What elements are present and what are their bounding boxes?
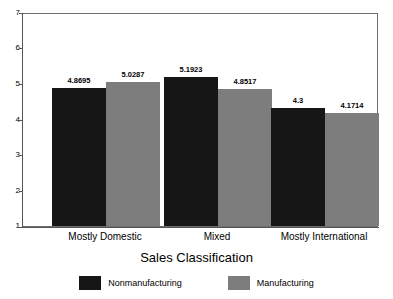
legend-item-manufacturing[interactable]: Manufacturing <box>228 276 314 290</box>
legend-item-nonmanufacturing[interactable]: Nonmanufacturing <box>79 276 182 290</box>
bar-value-manufacturing-mostly-international: 4.1714 <box>322 102 382 110</box>
bar-slot-nonmanufacturing: 4.8695 <box>52 12 106 226</box>
x-tick-label-mostly-international: Mostly International <box>244 231 393 243</box>
bar-slot-manufacturing: 4.1714 <box>325 12 379 226</box>
x-axis-title: Sales Classification <box>0 250 393 265</box>
y-tick-label-7: 7 <box>2 9 20 17</box>
bar-slot-nonmanufacturing: 5.1923 <box>164 12 218 226</box>
legend-label-nonmanufacturing: Nonmanufacturing <box>108 278 182 288</box>
bar-group-mixed: 5.1923 4.8517 <box>164 12 272 226</box>
bar-value-nonmanufacturing-mostly-international: 4.3 <box>268 97 328 105</box>
bar-manufacturing-mostly-domestic[interactable] <box>106 82 160 226</box>
bar-slot-nonmanufacturing: 4.3 <box>271 12 325 226</box>
bar-slot-manufacturing: 4.8517 <box>218 12 272 226</box>
bar-value-manufacturing-mixed: 4.8517 <box>215 78 275 86</box>
y-tick-label-5: 5 <box>2 80 20 88</box>
y-tick-label-4: 4 <box>2 116 20 124</box>
bar-slot-manufacturing: 5.0287 <box>106 12 160 226</box>
y-tick-label-3: 3 <box>2 151 20 159</box>
bar-chart: 7 6 5 4 3 2 1 4.8695 5.0287 <box>0 0 393 299</box>
chart-legend: Nonmanufacturing Manufacturing <box>0 272 393 294</box>
bar-manufacturing-mixed[interactable] <box>218 89 272 226</box>
legend-swatch-nonmanufacturing <box>79 276 101 290</box>
y-tick-label-1: 1 <box>2 222 20 230</box>
plot-area: 4.8695 5.0287 5.1923 4.8517 4.3 <box>22 13 378 227</box>
y-axis-line <box>22 13 23 228</box>
bar-manufacturing-mostly-international[interactable] <box>325 113 379 226</box>
y-tick-label-2: 2 <box>2 187 20 195</box>
bar-group-mostly-domestic: 4.8695 5.0287 <box>52 12 160 226</box>
legend-label-manufacturing: Manufacturing <box>257 278 314 288</box>
x-axis-line <box>22 227 379 228</box>
bar-group-mostly-international: 4.3 4.1714 <box>271 12 379 226</box>
y-tick-label-6: 6 <box>2 44 20 52</box>
bar-value-manufacturing-mostly-domestic: 5.0287 <box>103 71 163 79</box>
bar-value-nonmanufacturing-mixed: 5.1923 <box>161 66 221 74</box>
bar-nonmanufacturing-mixed[interactable] <box>164 77 218 227</box>
bar-value-nonmanufacturing-mostly-domestic: 4.8695 <box>49 77 109 85</box>
bar-nonmanufacturing-mostly-domestic[interactable] <box>52 88 106 226</box>
legend-swatch-manufacturing <box>228 276 250 290</box>
bar-nonmanufacturing-mostly-international[interactable] <box>271 108 325 226</box>
